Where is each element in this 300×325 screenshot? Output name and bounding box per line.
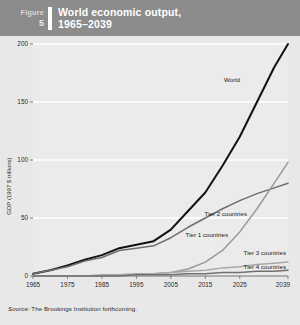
x-tick-label: 2025 [233,281,248,288]
title-line-2: 1965–2039 [58,18,181,30]
page-title: World economic output, 1965–2039 [58,6,181,30]
figure-header: Figure 5 World economic output, 1965–203… [0,0,300,36]
x-tick-label: 2039 [276,281,291,288]
figure-container: Figure 5 World economic output, 1965–203… [0,0,300,325]
line-chart: 050100150200 196519751985199520052015202… [0,36,300,298]
series-label-world: World [224,76,241,83]
y-tick-label: 100 [17,156,28,163]
chart-area: 050100150200 196519751985199520052015202… [0,36,300,298]
source-note: Source: The Brookings Institution forthc… [8,305,137,312]
x-tick-label: 1985 [95,281,110,288]
y-tick-label: 200 [17,40,28,47]
source-body: The Brookings Institution forthcoming. [31,305,137,312]
x-tick-label: 1995 [129,281,144,288]
figure-number: 5 [0,18,44,28]
series-label-tier-4-countries: Tier 4 countries [244,263,286,270]
x-tick-label: 2015 [198,281,213,288]
y-tick-label: 150 [17,98,28,105]
header-divider-bar [48,7,52,30]
x-axis-ticks: 19651975198519952005201520252039 [26,276,291,288]
series-label-tier-3-countries: Tier 3 countries [244,249,286,256]
x-tick-label: 1965 [26,281,41,288]
y-tick-label: 50 [21,214,29,221]
figure-number-block: Figure 5 [0,8,48,28]
series-label-tier-2-countries: Tier 2 countries [205,210,247,217]
title-line-1: World economic output, [58,6,181,18]
y-axis-label: GDP (1997 $ trillions) [6,157,12,214]
x-tick-label: 1975 [60,281,75,288]
source-prefix: Source: [8,305,30,312]
y-tick-label: 0 [24,272,28,279]
source-bar: Source: The Brookings Institution forthc… [0,298,300,325]
y-axis-ticks: 050100150200 [17,40,33,279]
figure-label: Figure [0,8,44,18]
x-tick-label: 2005 [164,281,179,288]
series-label-tier-1-countries: Tier 1 countries [186,231,228,238]
